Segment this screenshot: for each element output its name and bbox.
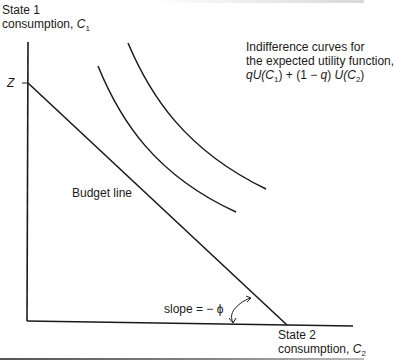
x-axis-sub: 2 bbox=[361, 349, 365, 358]
formula-u1: U( bbox=[253, 68, 266, 82]
utility-formula: qU(C1) + (1 − q) U(C2) bbox=[246, 68, 394, 87]
ic-label-line2: the expected utility function, bbox=[246, 54, 394, 68]
y-axis-sub: 1 bbox=[85, 24, 89, 33]
page-bottom-rule bbox=[0, 358, 364, 360]
x-axis-label: State 2 consumption, C2 bbox=[278, 328, 366, 361]
y-axis-label-text: consumption, bbox=[2, 17, 77, 31]
indifference-curves-label: Indifference curves for the expected uti… bbox=[246, 40, 394, 87]
x-axis-label-line1: State 2 bbox=[278, 328, 366, 342]
slope-label: slope = − ϕ bbox=[164, 302, 223, 316]
x-axis bbox=[27, 321, 353, 326]
formula-q: q bbox=[246, 68, 253, 82]
formula-c2: C bbox=[347, 68, 356, 82]
y-axis-label: State 1 consumption, C1 bbox=[2, 3, 90, 36]
z-intercept-label: Z bbox=[7, 76, 14, 90]
formula-end: ) bbox=[360, 68, 364, 82]
y-axis-label-line2: consumption, C1 bbox=[2, 17, 90, 36]
ic-label-line1: Indifference curves for bbox=[246, 40, 394, 54]
formula-mid: ) + (1 − bbox=[278, 68, 320, 82]
formula-c1: C bbox=[265, 68, 274, 82]
budget-line bbox=[28, 83, 287, 325]
y-axis-label-line1: State 1 bbox=[2, 3, 90, 17]
budget-line-label: Budget line bbox=[72, 186, 132, 200]
formula-mid2: ) bbox=[327, 68, 334, 82]
x-axis-label-text: consumption, bbox=[278, 342, 353, 356]
formula-u2: U( bbox=[335, 68, 348, 82]
